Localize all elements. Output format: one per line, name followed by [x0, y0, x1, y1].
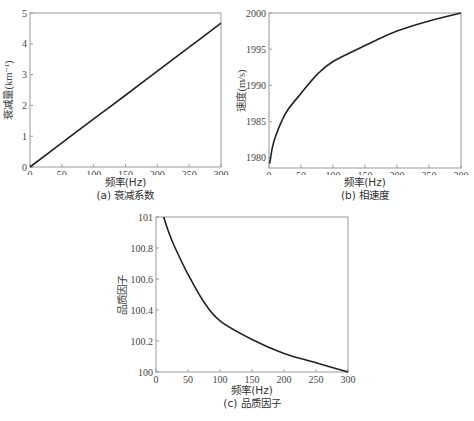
data-line: [164, 217, 348, 372]
chart-c-xlabel: 频率(Hz): [156, 384, 348, 396]
y-axis-label: 品质因子: [117, 275, 128, 315]
y-tick-label: 100: [138, 367, 153, 378]
y-tick-label: 100.4: [131, 305, 154, 316]
y-tick-label: 100.6: [131, 274, 154, 285]
y-tick-label: 100.8: [131, 243, 154, 254]
chart-c-plot: 050100150200250300100100.2100.4100.6100.…: [0, 0, 474, 385]
plot-frame: [156, 217, 348, 372]
y-tick-label: 100.2: [131, 336, 154, 347]
chart-c-quality-factor: 050100150200250300100100.2100.4100.6100.…: [0, 0, 474, 421]
y-tick-label: 101: [138, 212, 153, 223]
chart-c-caption: (c) 品质因子: [156, 397, 348, 409]
